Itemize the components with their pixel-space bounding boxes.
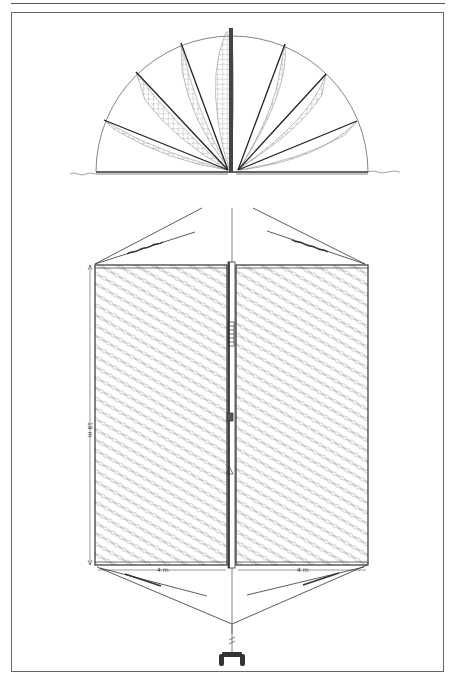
net-diagram: 18 m 4 m 4 m	[0, 0, 455, 689]
net-plan: 18 m 4 m 4 m	[87, 208, 368, 666]
ground-left	[70, 173, 96, 175]
left-net-panel	[95, 265, 227, 565]
left-width-label: 4 m	[157, 566, 169, 573]
fan-view	[70, 28, 400, 175]
right-net-panel	[236, 265, 368, 565]
height-label: 18 m	[87, 422, 94, 438]
ground-right	[368, 171, 400, 173]
anchor-weight	[219, 652, 245, 666]
center-post	[229, 28, 233, 172]
right-width-label: 4 m	[297, 566, 309, 573]
top-guy-lines	[95, 208, 365, 264]
